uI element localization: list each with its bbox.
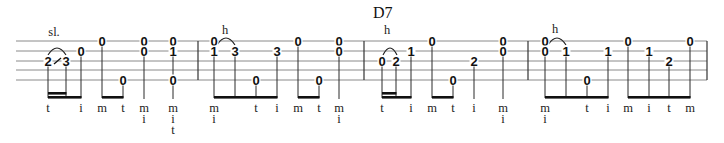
beam [48, 96, 82, 99]
finger-label: i [543, 112, 547, 126]
fret-number: 2 [392, 54, 399, 69]
fret-number: 1 [210, 44, 217, 59]
finger-label: i [212, 112, 216, 126]
finger-label: t [380, 101, 384, 115]
fret-number: 0 [98, 34, 105, 49]
beam [432, 96, 454, 99]
finger-label: i [142, 112, 146, 126]
chord-symbol: D7 [373, 4, 393, 21]
fret-number: 0 [686, 34, 693, 49]
technique-annotation: h [552, 22, 559, 36]
fret-number: 1 [645, 44, 652, 59]
fret-number: 3 [273, 44, 280, 59]
fret-number: 0 [499, 44, 506, 59]
beam [545, 96, 609, 99]
finger-label: m [685, 101, 695, 115]
fret-number: 2 [44, 54, 51, 69]
fret-number: 1 [407, 44, 414, 59]
beam [48, 92, 67, 95]
beam [214, 96, 278, 99]
fret-number: 0 [335, 44, 342, 59]
finger-label: t [317, 101, 321, 115]
finger-label: i [79, 101, 83, 115]
technique-annotation: h [384, 23, 391, 37]
finger-label: m [293, 101, 303, 115]
finger-label: m [427, 101, 437, 115]
technique-annotations: sl.hhh [48, 22, 559, 39]
fret-number: 1 [169, 44, 176, 59]
fret-number: 0 [119, 73, 126, 88]
fret-number: 2 [470, 54, 477, 69]
finger-label: i [647, 101, 651, 115]
banjo-tablature: 230000001001303000002100200001010120 tim… [0, 0, 724, 143]
finger-label: t [254, 101, 258, 115]
beam [298, 96, 320, 99]
finger-label: i [337, 112, 341, 126]
fret-number: 0 [294, 34, 301, 49]
fret-number: 0 [541, 44, 548, 59]
fret-number: 1 [562, 44, 569, 59]
fret-number: 1 [604, 44, 611, 59]
fret-number: 0 [624, 34, 631, 49]
fret-number: 0 [378, 54, 385, 69]
finger-label: i [472, 101, 476, 115]
finger-label: m [97, 101, 107, 115]
finger-label: t [667, 101, 671, 115]
technique-annotation: sl. [48, 25, 59, 39]
fret-number: 3 [62, 54, 69, 69]
beam [102, 96, 124, 99]
fret-number: 0 [449, 73, 456, 88]
beam [382, 96, 412, 99]
fret-number: 0 [77, 44, 84, 59]
finger-label: t [171, 123, 175, 137]
finger-label: i [409, 101, 413, 115]
finger-label: i [275, 101, 279, 115]
finger-label: t [46, 101, 50, 115]
finger-label: m [623, 101, 633, 115]
finger-labels: timtmimitmitimtmitimtimimitimitm [46, 101, 695, 137]
finger-label: i [501, 112, 505, 126]
fret-number: 0 [315, 73, 322, 88]
finger-label: t [585, 101, 589, 115]
beam [382, 92, 397, 95]
technique-annotation: h [222, 23, 229, 37]
fret-number: 2 [665, 54, 672, 69]
finger-label: i [606, 101, 610, 115]
fret-number: 0 [252, 73, 259, 88]
fret-number: 0 [583, 73, 590, 88]
finger-label: t [451, 101, 455, 115]
beam [628, 96, 691, 99]
fret-number: 0 [169, 73, 176, 88]
fret-number: 0 [428, 34, 435, 49]
finger-label: t [121, 101, 125, 115]
fret-number: 0 [140, 44, 147, 59]
fret-number: 3 [231, 44, 238, 59]
